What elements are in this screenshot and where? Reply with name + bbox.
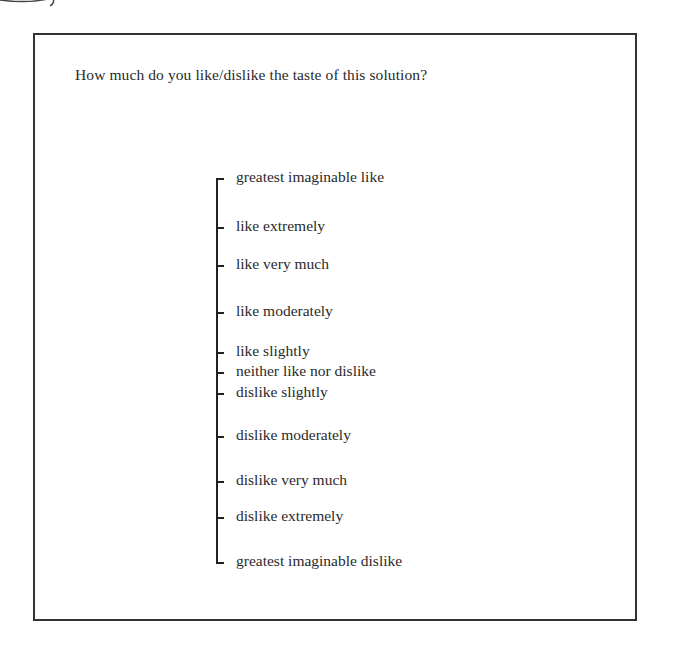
scale-tick[interactable]: [216, 178, 224, 180]
scale-label: like moderately: [236, 302, 333, 320]
scale-tick[interactable]: [216, 562, 224, 564]
scale-label: dislike extremely: [236, 507, 343, 525]
scale-label: like extremely: [236, 217, 325, 235]
rating-scale-frame: [33, 33, 637, 621]
question-text: How much do you like/dislike the taste o…: [75, 66, 427, 84]
scale-label: dislike slightly: [236, 383, 328, 401]
scale-label: dislike moderately: [236, 426, 351, 444]
scale-label: neither like nor dislike: [236, 362, 376, 380]
scale-axis-line[interactable]: [216, 178, 218, 564]
scale-tick[interactable]: [216, 312, 224, 314]
scale-tick[interactable]: [216, 352, 224, 354]
scale-tick[interactable]: [216, 265, 224, 267]
scale-tick[interactable]: [216, 372, 224, 374]
scale-tick[interactable]: [216, 517, 224, 519]
page-fragment-mark: [0, 0, 60, 8]
scale-label: dislike very much: [236, 471, 347, 489]
scale-tick[interactable]: [216, 227, 224, 229]
scale-tick[interactable]: [216, 393, 224, 395]
scale-label: greatest imaginable dislike: [236, 552, 402, 570]
scale-tick[interactable]: [216, 481, 224, 483]
scale-label: like slightly: [236, 342, 310, 360]
scale-tick[interactable]: [216, 436, 224, 438]
scale-label: like very much: [236, 255, 329, 273]
scale-label: greatest imaginable like: [236, 168, 384, 186]
